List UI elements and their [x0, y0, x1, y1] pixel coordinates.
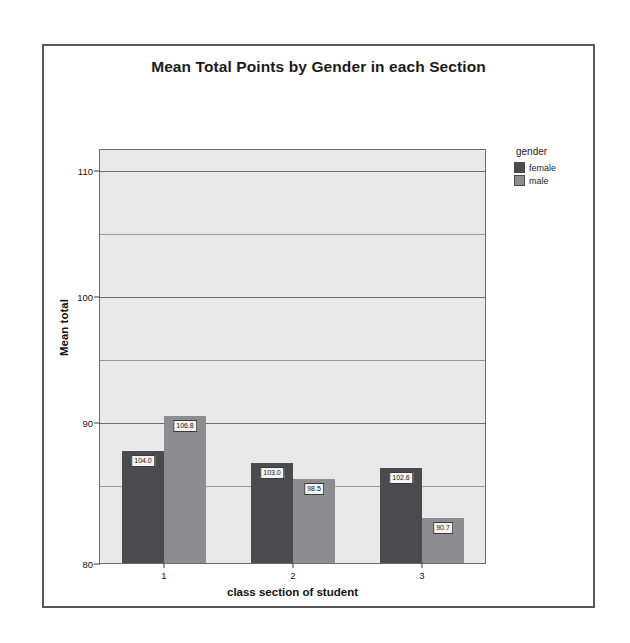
bar-section1-female[interactable]: 104.0	[122, 451, 164, 563]
gridline-100	[100, 297, 485, 298]
x-axis-title: class section of student	[99, 586, 486, 598]
chart-frame: Mean Total Points by Gender in each Sect…	[42, 44, 595, 608]
x-tick-label-3: 3	[419, 563, 424, 581]
legend-swatch-male-icon	[514, 175, 525, 186]
y-tick-label-110: 110	[78, 166, 100, 177]
legend-label-male: male	[529, 176, 549, 186]
legend: gender female male	[514, 146, 590, 188]
bar-value-label: 103.0	[260, 467, 284, 479]
bar-section3-male[interactable]: 90.7	[422, 518, 464, 563]
gridline-90	[100, 423, 485, 424]
bar-section3-female[interactable]: 102.6	[380, 468, 422, 563]
legend-title: gender	[514, 146, 590, 157]
y-tick-label-80: 80	[82, 559, 100, 570]
bar-value-label: 102.6	[389, 472, 413, 484]
gridline-105	[100, 234, 485, 235]
bar-section1-male[interactable]: 106.8	[164, 416, 206, 563]
legend-item-female[interactable]: female	[514, 162, 590, 173]
bar-value-label: 106.8	[173, 420, 197, 432]
legend-swatch-female-icon	[514, 162, 525, 173]
plot-area: 110 100 90 80 1 2 3 104.0 106.8 103.0 98…	[99, 149, 486, 564]
y-tick-label-100: 100	[77, 292, 100, 303]
bar-section2-male[interactable]: 98.5	[293, 479, 335, 563]
x-tick-label-2: 2	[290, 563, 295, 581]
bar-value-label: 90.7	[433, 522, 453, 534]
bar-value-label: 98.5	[304, 483, 324, 495]
bar-value-label: 104.0	[131, 455, 155, 467]
bar-section2-female[interactable]: 103.0	[251, 463, 293, 563]
legend-label-female: female	[529, 163, 556, 173]
y-axis-title: Mean total	[58, 299, 70, 356]
chart-title: Mean Total Points by Gender in each Sect…	[44, 58, 593, 76]
legend-item-male[interactable]: male	[514, 175, 590, 186]
gridline-95	[100, 360, 485, 361]
x-tick-label-1: 1	[161, 563, 166, 581]
y-tick-label-90: 90	[82, 418, 100, 429]
gridline-110	[100, 171, 485, 172]
